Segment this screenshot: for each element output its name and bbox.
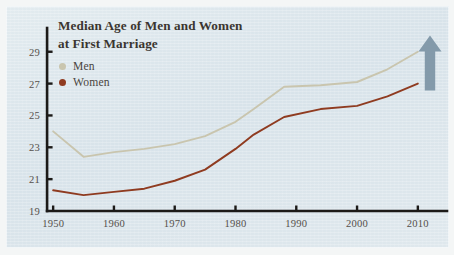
- legend-item-women[interactable]: Women: [59, 76, 110, 89]
- x-tick-label: 1960: [103, 218, 125, 229]
- x-tick-label: 2000: [346, 218, 368, 229]
- data-series-group: [53, 52, 418, 195]
- chart-figure: Median Age of Men and Women at First Mar…: [0, 0, 454, 255]
- legend-marker-women-icon: [59, 79, 66, 86]
- chart-panel: Median Age of Men and Women at First Mar…: [6, 6, 449, 248]
- legend-label-women: Women: [73, 76, 110, 89]
- y-tick-label: 25: [6, 110, 40, 121]
- annotations-group: [419, 35, 442, 90]
- x-tick-label: 1990: [285, 218, 307, 229]
- y-tick-label: 21: [6, 174, 40, 185]
- legend-label-men: Men: [73, 60, 95, 73]
- chart-title-line1: Median Age of Men and Women: [58, 18, 243, 34]
- legend-item-men[interactable]: Men: [59, 60, 95, 73]
- x-tick-label: 1970: [164, 218, 186, 229]
- series-line-women: [53, 84, 418, 195]
- y-tick-label: 23: [6, 142, 40, 153]
- axes-group: [47, 28, 447, 211]
- chart-title-line2: at First Marriage: [58, 36, 158, 52]
- x-tick-label: 1980: [225, 218, 247, 229]
- up-arrow-icon: [419, 35, 442, 90]
- y-tick-label: 27: [6, 78, 40, 89]
- legend-marker-men-icon: [59, 63, 66, 70]
- x-tick-label: 2010: [407, 218, 429, 229]
- x-tick-label: 1950: [42, 218, 64, 229]
- y-tick-label: 29: [6, 46, 40, 57]
- y-tick-label: 19: [6, 206, 40, 217]
